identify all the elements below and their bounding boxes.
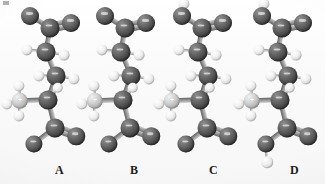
atom-carbon-c4 (114, 91, 133, 110)
atom-hydrogen-h3b (300, 73, 311, 84)
specular-highlight (219, 19, 225, 21)
atom-carbon-c1 (193, 19, 212, 38)
specular-highlight (67, 19, 73, 21)
atom-oxygen-o1 (253, 7, 271, 25)
atom-hydrogen-h3b (68, 73, 79, 84)
atom-hydrogen-h2b (291, 50, 302, 61)
specular-highlight (51, 124, 58, 126)
specular-highlight (44, 96, 51, 98)
atom-oxygen-o3 (100, 135, 117, 152)
atom-oxygen-o2 (214, 14, 232, 32)
atom-hydrogen-hn1 (13, 80, 24, 91)
specular-highlight (274, 48, 281, 50)
atom-hydrogen-h2a (253, 44, 264, 55)
molecule-c: + (160, 0, 242, 160)
specular-highlight (278, 24, 285, 26)
atom-hydrogen-h2a (21, 44, 32, 55)
specular-highlight (117, 48, 124, 50)
specular-highlight (224, 132, 230, 134)
atom-hydrogen-ho3 (261, 156, 273, 168)
atom-oxygen-o2 (62, 14, 80, 32)
specular-highlight (101, 12, 107, 14)
atom-carbon-c2 (269, 43, 288, 62)
atom-carbon-c1 (41, 19, 60, 38)
molecule-d: + (240, 0, 322, 160)
atom-carbon-c5 (121, 119, 140, 138)
specular-highlight (299, 19, 305, 21)
atom-carbon-c2 (112, 43, 131, 62)
atom-hydrogen-hn2 (13, 110, 24, 121)
specular-highlight (178, 12, 184, 14)
atom-hydrogen-hn2 (165, 110, 176, 121)
atom-oxygen-o1 (21, 7, 39, 25)
atom-oxygen-o3 (25, 135, 42, 152)
specular-highlight (121, 24, 128, 26)
atom-oxygen-o4 (67, 127, 85, 145)
atom-carbon-c5 (278, 119, 297, 138)
atom-oxygen-o3 (177, 135, 194, 152)
atom-carbon-c2 (189, 43, 208, 62)
specular-highlight (126, 124, 133, 126)
specular-highlight (142, 19, 148, 21)
atom-hydrogen-h2a (173, 44, 184, 55)
atom-hydrogen-hn3 (233, 98, 244, 109)
atom-hydrogen-hn1 (88, 80, 99, 91)
atom-carbon-c4 (191, 91, 210, 110)
atom-hydrogen-h3b (143, 73, 154, 84)
atom-hydrogen-h3a (265, 70, 276, 81)
specular-highlight (147, 132, 153, 134)
molecule-comparison-figure: ++++ ABCD (0, 0, 325, 184)
molecule-label-a: A (55, 163, 64, 178)
specular-highlight (198, 24, 205, 26)
molecule-label-b: B (130, 163, 138, 178)
atom-nitrogen-n: + (12, 93, 28, 109)
atom-hydrogen-h2a (96, 44, 107, 55)
molecule-b: + (83, 0, 165, 160)
specular-highlight (30, 141, 36, 143)
atom-oxygen-o1 (96, 7, 114, 25)
atom-carbon-c2 (37, 43, 56, 62)
specular-highlight (262, 141, 268, 143)
specular-highlight (203, 124, 210, 126)
specular-highlight (204, 72, 211, 74)
specular-highlight (105, 141, 111, 143)
atom-hydrogen-h3b (220, 73, 231, 84)
ammonium-charge-mark: + (17, 96, 22, 105)
ammonium-charge-mark: + (169, 96, 174, 105)
atom-oxygen-o4 (142, 127, 160, 145)
atom-hydrogen-hn1 (245, 80, 256, 91)
atom-carbon-c4 (39, 91, 58, 110)
atom-nitrogen-n: + (244, 93, 260, 109)
atom-carbon-c4 (271, 91, 290, 110)
ammonium-charge-mark: + (249, 96, 254, 105)
atom-oxygen-o4 (219, 127, 237, 145)
molecule-label-c: C (209, 163, 218, 178)
atom-oxygen-o4 (299, 127, 317, 145)
molecule-a: + (8, 0, 90, 160)
atom-hydrogen-hn3 (76, 98, 87, 109)
specular-highlight (42, 48, 49, 50)
atom-hydrogen-hn3 (153, 98, 164, 109)
atom-hydrogen-h3a (108, 70, 119, 81)
specular-highlight (119, 96, 126, 98)
atom-oxygen-o3 (257, 135, 274, 152)
atom-hydrogen-h2b (211, 50, 222, 61)
atom-hydrogen-h4 (53, 83, 63, 93)
specular-highlight (26, 12, 32, 14)
specular-highlight (72, 132, 78, 134)
atom-nitrogen-n: + (87, 93, 103, 109)
molecule-label-d: D (290, 163, 299, 178)
atom-nitrogen-n: + (164, 93, 180, 109)
specular-highlight (52, 72, 59, 74)
atom-hydrogen-hn2 (245, 110, 256, 121)
atom-hydrogen-h4 (205, 83, 215, 93)
atom-carbon-c5 (198, 119, 217, 138)
atom-hydrogen-h2b (59, 50, 70, 61)
specular-highlight (283, 124, 290, 126)
atom-hydrogen-h4 (128, 83, 138, 93)
atom-hydrogen-hn1 (165, 80, 176, 91)
specular-highlight (196, 96, 203, 98)
ammonium-charge-mark: + (92, 96, 97, 105)
atom-hydrogen-h3a (33, 70, 44, 81)
atom-oxygen-o1 (173, 7, 191, 25)
